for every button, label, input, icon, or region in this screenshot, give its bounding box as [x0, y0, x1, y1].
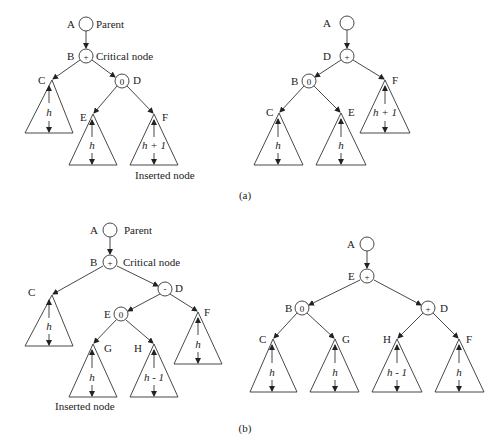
parent-note: Parent: [124, 224, 152, 236]
subtree-e-label: E: [348, 106, 355, 118]
edge-e-h: [126, 320, 153, 343]
critical-node-note: Critical node: [123, 256, 180, 268]
subtree-c-label: C: [259, 333, 266, 345]
node-d-balance: +: [344, 52, 349, 62]
edge-b-d: [92, 60, 115, 77]
edge-e-g: [94, 320, 116, 343]
edge-d-e: [94, 86, 117, 113]
inserted-node-note: Inserted node: [55, 400, 115, 412]
subtree-c-height: h: [46, 106, 52, 118]
node-a-label: A: [90, 224, 98, 236]
node-b-balance: +: [107, 258, 112, 268]
subtree-f-height: h + 1: [373, 106, 397, 118]
edge-d-f: [433, 313, 458, 338]
subtree-g-height: h: [332, 366, 338, 378]
node-a-label: A: [323, 17, 331, 29]
edge-d-e: [128, 294, 160, 311]
node-b-label: B: [90, 256, 97, 268]
subtree-c-height: h: [275, 139, 281, 151]
edge-b-e: [314, 86, 340, 112]
subtree-g-label: G: [104, 342, 112, 354]
node-e-label: E: [104, 308, 111, 320]
node-b-label: B: [291, 75, 298, 87]
caption-b: (b): [239, 422, 252, 435]
subtree-e-label: E: [80, 111, 87, 123]
edge-e-b: [309, 280, 360, 305]
edge-d-h: [398, 313, 423, 338]
subtree-h-height: h - 1: [144, 371, 164, 383]
subtree-h-label: H: [383, 333, 391, 345]
part-b-before-tree: A Parent + B Critical node - D 0 E C h F…: [25, 223, 222, 412]
subtree-f-height: h: [195, 338, 201, 350]
node-d-label: D: [133, 74, 141, 86]
edge-d-f: [353, 60, 384, 79]
edge-d-f: [127, 86, 153, 113]
subtree-h-height: h - 1: [387, 366, 407, 378]
node-a-circle: [79, 17, 93, 31]
node-d-balance: -: [164, 284, 167, 294]
subtree-c-label: C: [38, 74, 45, 86]
node-a-circle: [340, 16, 354, 30]
node-e-balance: 0: [119, 310, 124, 320]
subtree-c-label: C: [28, 286, 35, 298]
node-d-balance: +: [425, 304, 430, 314]
node-a-circle: [360, 237, 374, 251]
edge-b-g: [307, 313, 334, 338]
node-a-label: A: [347, 238, 355, 250]
avl-rotation-figure: A Parent + B Critical node 0 D C h E h F…: [0, 0, 491, 441]
edge-b-c: [53, 266, 103, 294]
node-a-circle: [103, 223, 117, 237]
node-e-balance: +: [364, 272, 369, 282]
subtree-h-label: H: [134, 342, 142, 354]
edge-d-f: [170, 294, 197, 311]
edge-b-d: [117, 266, 158, 286]
subtree-f-label: F: [466, 333, 472, 345]
edge-b-c: [53, 60, 80, 79]
edge-b-c: [280, 86, 304, 112]
node-d-label: D: [323, 50, 331, 62]
node-b-label: B: [285, 302, 292, 314]
node-d-balance: 0: [120, 77, 125, 87]
subtree-e-height: h: [338, 139, 344, 151]
node-e-label: E: [348, 270, 355, 282]
subtree-f-height: h + 1: [142, 139, 166, 151]
subtree-f-height: h: [456, 366, 462, 378]
critical-node-note: Critical node: [96, 50, 153, 62]
part-a-after-tree: A + D 0 B C h E h F h + 1: [254, 16, 410, 165]
caption-a: (a): [239, 189, 252, 202]
subtree-f-label: F: [204, 306, 210, 318]
part-b-after-tree: A + E 0 B + D C h G h H h - 1 F h: [250, 237, 484, 392]
edge-d-b: [315, 60, 341, 77]
node-b-label: B: [67, 50, 74, 62]
node-b-balance: +: [83, 52, 88, 62]
subtree-c-label: C: [266, 106, 273, 118]
part-a-before-tree: A Parent + B Critical node 0 D C h E h F…: [25, 17, 195, 181]
subtree-g-label: G: [342, 333, 350, 345]
subtree-f-label: F: [162, 111, 168, 123]
node-d-label: D: [175, 282, 183, 294]
node-d-label: D: [440, 302, 448, 314]
inserted-node-note: Inserted node: [135, 169, 195, 181]
edge-e-d: [374, 280, 421, 305]
node-b-balance: 0: [300, 304, 305, 314]
subtree-c-height: h: [269, 366, 275, 378]
subtree-c-height: h: [46, 320, 52, 332]
node-a-label: A: [67, 18, 75, 30]
edge-b-c: [274, 313, 297, 338]
subtree-f-label: F: [392, 74, 398, 86]
node-b-balance: 0: [307, 77, 312, 87]
subtree-g-height: h: [89, 371, 95, 383]
subtree-e-height: h: [89, 139, 95, 151]
parent-note: Parent: [96, 18, 124, 30]
